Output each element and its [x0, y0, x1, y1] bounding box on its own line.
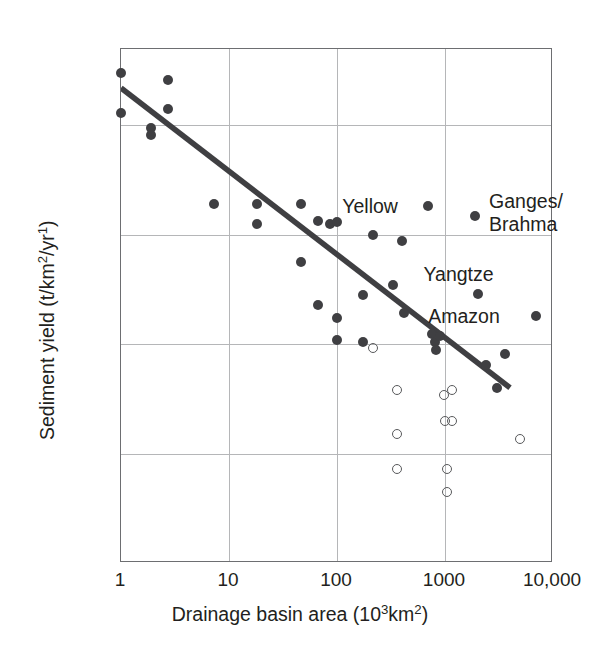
data-point: [423, 201, 433, 211]
data-point: [442, 487, 452, 497]
gridline-vertical: [229, 49, 230, 561]
data-point: [447, 385, 457, 395]
x-tick-label: 10,000: [492, 569, 600, 591]
data-point: [252, 219, 262, 229]
gridline-horizontal: [121, 235, 551, 236]
x-tick-label: 1000: [384, 569, 504, 591]
data-point: [252, 199, 262, 209]
data-point: [163, 104, 173, 114]
plot-area: YellowGanges/BrahmaYangtzeAmazon: [120, 48, 552, 562]
x-axis-title-main: Drainage basin area (10: [172, 603, 381, 625]
data-point: [492, 383, 502, 393]
x-axis-title-close: ): [422, 603, 429, 625]
data-point: [116, 68, 126, 78]
annotation-yellow: Yellow: [342, 195, 398, 218]
data-point: [473, 289, 483, 299]
y-axis-title-mid: /yr: [36, 234, 58, 256]
data-point: [388, 280, 398, 290]
annotation-ganges-brahma: Ganges/: [489, 190, 563, 213]
x-axis-title-tail: km: [388, 603, 414, 625]
data-point: [399, 308, 409, 318]
x-axis-title: Drainage basin area (103km2): [0, 603, 600, 626]
data-point: [481, 360, 491, 370]
data-point: [392, 464, 402, 474]
data-point: [368, 230, 378, 240]
data-point: [531, 311, 541, 321]
x-tick-label: 1: [60, 569, 180, 591]
data-point: [296, 199, 306, 209]
data-point: [431, 345, 441, 355]
data-point: [296, 257, 306, 267]
gridline-vertical: [337, 49, 338, 561]
data-point: [392, 385, 402, 395]
data-point: [500, 349, 510, 359]
data-point: [442, 464, 452, 474]
data-point: [392, 429, 402, 439]
data-point: [332, 335, 342, 345]
x-axis-title-sup2: 2: [414, 602, 421, 617]
gridline-horizontal: [121, 454, 551, 455]
data-point: [358, 290, 368, 300]
y-axis-title-sup: 2: [35, 256, 50, 263]
x-tick-label: 100: [276, 569, 396, 591]
data-point: [368, 343, 378, 353]
sediment-yield-scatter-chart: Sediment yield (t/km2/yr1) Drainage basi…: [0, 0, 600, 650]
y-axis-title-main: Sediment yield (t/km: [36, 263, 58, 440]
data-point: [116, 108, 126, 118]
data-point: [397, 236, 407, 246]
data-point: [515, 434, 525, 444]
data-point: [146, 130, 156, 140]
data-point: [163, 75, 173, 85]
data-point: [313, 300, 323, 310]
data-point: [470, 211, 480, 221]
y-axis-title-sup2: 1: [35, 227, 50, 234]
data-point: [332, 313, 342, 323]
data-point: [358, 337, 368, 347]
y-axis-title: Sediment yield (t/km2/yr1): [36, 220, 59, 440]
annotation-brahma: Brahma: [489, 213, 557, 236]
x-tick-label: 10: [168, 569, 288, 591]
gridline-horizontal: [121, 125, 551, 126]
data-point: [332, 217, 342, 227]
data-point: [435, 331, 445, 341]
y-axis-title-close: ): [36, 220, 58, 227]
data-point: [313, 216, 323, 226]
annotation-yangtze: Yangtze: [424, 263, 494, 286]
data-point: [447, 416, 457, 426]
annotation-amazon: Amazon: [428, 305, 500, 328]
data-point: [209, 199, 219, 209]
